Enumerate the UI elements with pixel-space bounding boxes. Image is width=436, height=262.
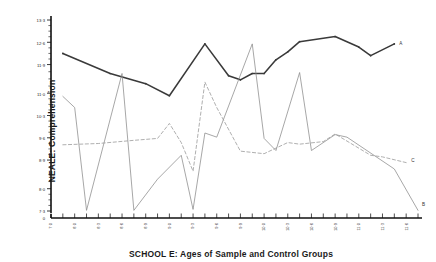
plot-area: 7·38·08·99·610·311·011·912·613·30 7·08·0…	[0, 0, 436, 262]
y-tick-label: 9·6	[39, 136, 46, 141]
data-point-marker	[299, 41, 301, 43]
x-tick-labels: 7·08·08·38·68·99·09·39·69·910·010·310·61…	[48, 222, 408, 231]
x-tick-label: 9·6	[214, 223, 219, 229]
data-point-marker	[169, 95, 171, 97]
data-point-marker	[62, 53, 64, 55]
x-tick-label: 8·0	[72, 222, 77, 228]
data-point-marker	[228, 75, 230, 77]
x-tick-label: 7·0	[48, 222, 53, 228]
y-tick-label: 11·9	[37, 63, 46, 68]
y-tick-label: 11·0	[37, 92, 46, 97]
data-point-marker	[109, 73, 111, 75]
y-axis-title: NEALE: Comprehension	[47, 80, 57, 183]
y-tick-label: 8·9	[39, 158, 46, 163]
x-axis-title: SCHOOL E: Ages of Sample and Control Gro…	[0, 249, 436, 259]
data-point-marker	[370, 55, 372, 57]
series-end-labels: ABC	[399, 41, 425, 206]
chart-container: NEALE: Comprehension SCHOOL E: Ages of S…	[0, 0, 436, 262]
x-tick-label: 8·6	[119, 223, 124, 229]
data-point-marker	[251, 73, 253, 75]
x-tick-label: 11·3	[380, 223, 385, 231]
series-line-c	[63, 82, 406, 171]
axis-lines	[51, 16, 422, 218]
y-tick-labels: 7·38·08·99·610·311·011·912·613·30	[37, 18, 46, 220]
data-series-group	[62, 36, 418, 211]
x-tick-label: 11·0	[356, 222, 361, 230]
x-tick-label: 10·9	[333, 223, 338, 231]
x-tick-label: 8·9	[143, 223, 148, 229]
data-point-marker	[263, 73, 265, 75]
data-point-marker	[334, 36, 336, 38]
x-tick-label: 11·6	[404, 223, 409, 231]
x-tick-label: 8·3	[96, 223, 101, 229]
data-point-marker	[145, 83, 147, 85]
data-point-marker	[275, 59, 277, 61]
y-tick-label: 10·3	[37, 114, 46, 119]
x-tick-label: 10·3	[285, 223, 290, 231]
y-tick-label: 7·3	[39, 209, 46, 214]
series-line-b	[63, 44, 418, 210]
series-label-c: C	[411, 158, 415, 163]
y-tick-label: 13·3	[37, 18, 46, 23]
x-tick-label: 9·9	[238, 223, 243, 229]
series-label-b: B	[422, 202, 425, 207]
data-point-marker	[204, 43, 206, 45]
x-tick-label: 9·3	[190, 223, 195, 229]
y-tick-label: 8·0	[39, 187, 46, 192]
data-point-marker	[240, 79, 242, 81]
data-point-marker	[358, 46, 360, 48]
x-tick-label: 10·6	[309, 223, 314, 231]
data-point-marker	[393, 43, 395, 45]
x-tick-label: 9·0	[167, 222, 172, 228]
data-point-marker	[287, 51, 289, 53]
series-label-a: A	[399, 41, 403, 46]
x-tick-label: 10·0	[261, 222, 266, 231]
series-line-a	[63, 37, 394, 96]
y-axis-break-label: 0	[43, 216, 46, 221]
y-tick-label: 12·6	[37, 41, 46, 46]
